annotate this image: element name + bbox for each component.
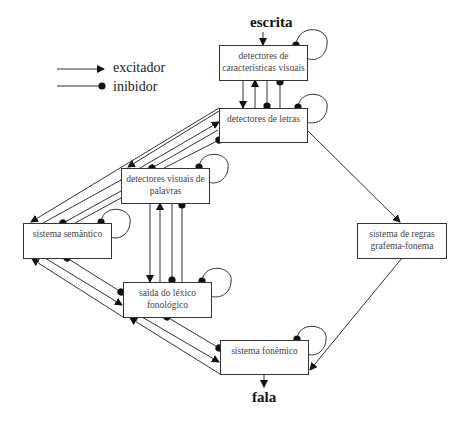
node-label: sistema fonêmico [221,345,308,357]
output-label-fala: fala [252,389,276,406]
node-label: saída do léxico [124,287,211,299]
legend-inhibitory-label: inibidor [113,79,157,95]
node-semantic-system: sistema semântico [23,223,112,259]
legend-excitatory-label: excitador [113,60,165,76]
node-phonological-lexicon: saída do léxico fonológico [123,282,212,318]
node-label: palavras [122,185,209,197]
node-label: grafema-fonema [358,240,446,252]
node-label: detectores de letras [220,113,307,125]
node-label: detectores de [220,50,307,62]
node-label: sistema semântico [24,228,111,240]
node-visual-features: detectores de características visuais [219,45,308,81]
node-label: sistema de regras [358,228,446,240]
node-visual-word-detectors: detectores visuais de palavras [121,168,210,204]
node-phoneme-system: sistema fonêmico [220,340,309,375]
node-label: detectores visuais de [122,173,209,185]
node-label: características visuais [220,62,307,74]
input-label-escrita: escrita [250,14,292,31]
node-gpc-rules: sistema de regras grafema-fonema [357,223,447,259]
node-letter-detectors: detectores de letras [219,108,308,143]
node-label: fonológico [124,299,211,311]
